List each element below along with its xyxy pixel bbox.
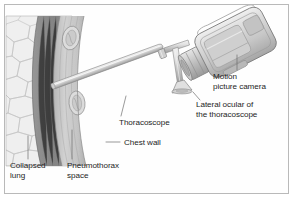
leader-lateral-ocular (193, 92, 200, 100)
chest-wall-region (53, 16, 86, 166)
label-chest-wall: Chest wall (124, 138, 161, 148)
label-collapsed-lung: Collapsed lung (10, 161, 46, 180)
label-pneumothorax-space: Pneumothorax space (67, 161, 119, 180)
label-motion-picture-camera: Motion picture camera (213, 72, 266, 91)
thoracoscopy-figure: Motion picture camera Lateral ocular of … (0, 0, 294, 199)
label-lateral-ocular: Lateral ocular of the thoracoscope (196, 100, 257, 119)
leader-thoracoscope (121, 96, 126, 116)
label-thoracoscope: Thoracoscope (119, 118, 170, 128)
